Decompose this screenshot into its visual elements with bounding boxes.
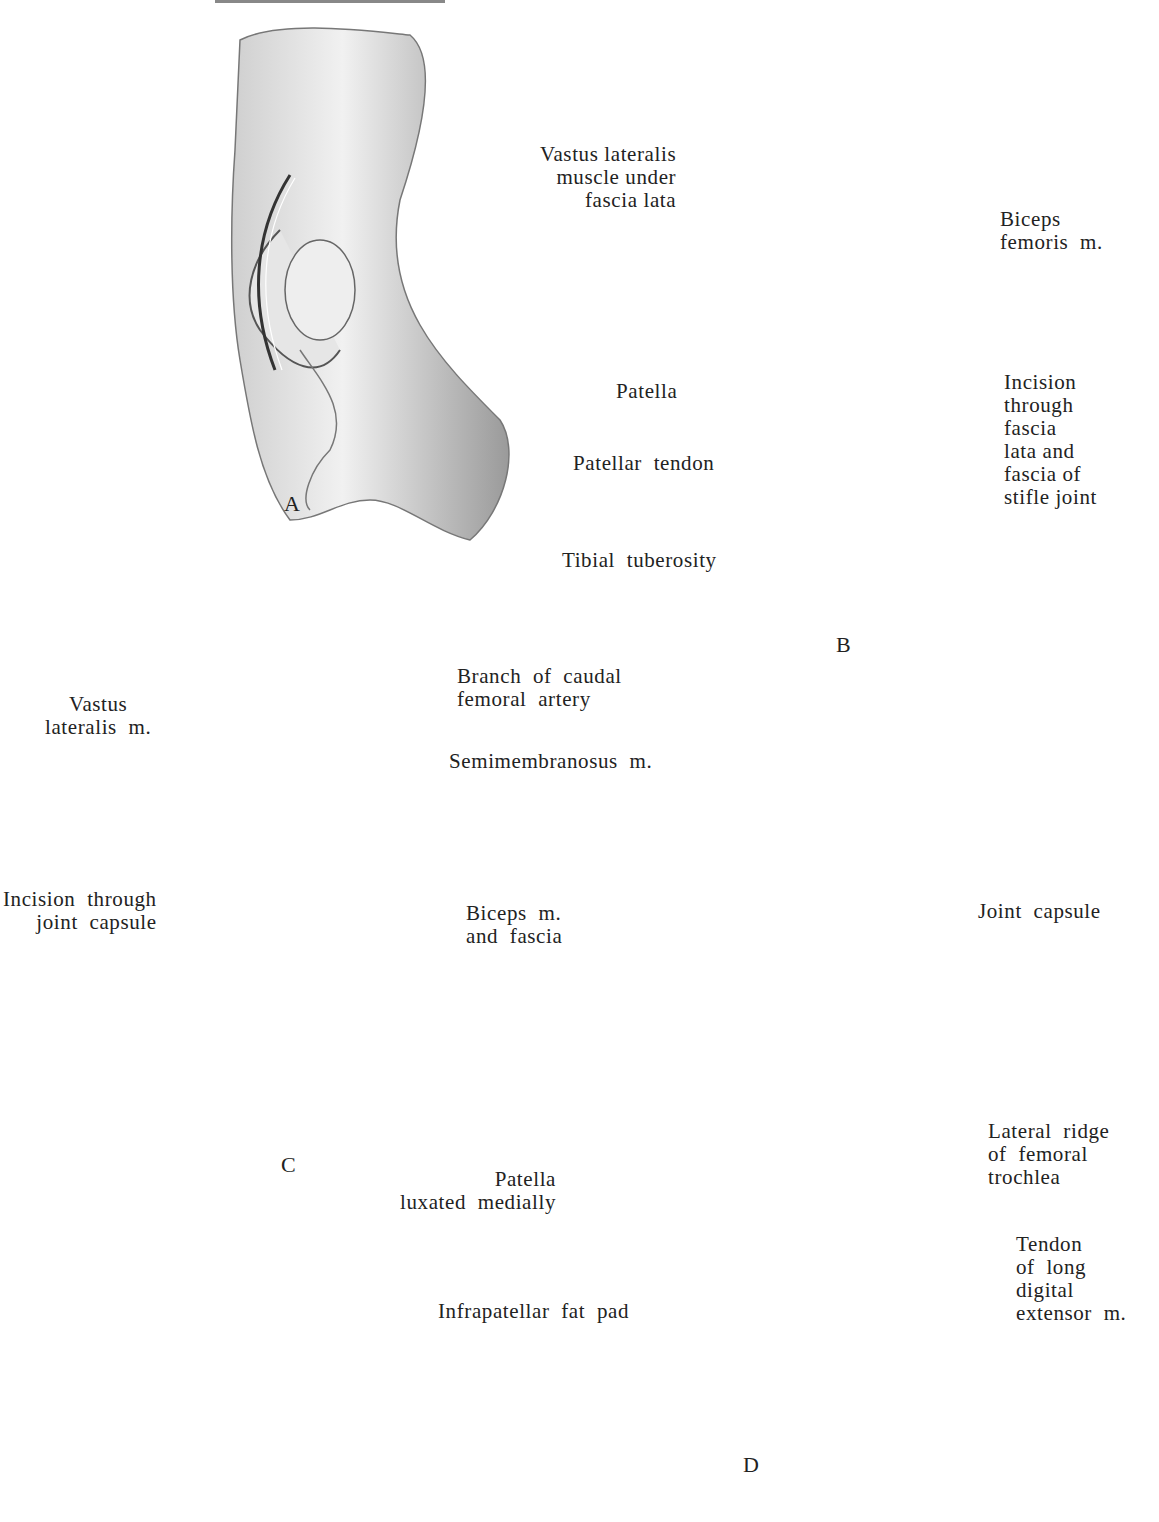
label-biceps-m-and-fascia: Biceps m. and fascia — [466, 902, 562, 948]
label-joint-capsule: Joint capsule — [978, 900, 1101, 923]
label-incision-through-joint-capsule: Incision through joint capsule — [3, 888, 157, 934]
label-tibial-tuberosity: Tibial tuberosity — [562, 549, 717, 572]
clipped-header-text — [215, 0, 445, 3]
label-biceps-femoris: Biceps femoris m. — [1000, 208, 1103, 254]
panel-label-d: D — [743, 1452, 759, 1478]
label-lateral-ridge-femoral-trochlea: Lateral ridge of femoral trochlea — [988, 1120, 1110, 1189]
panel-a-illustration — [232, 28, 509, 540]
label-patellar-tendon: Patellar tendon — [573, 452, 714, 475]
label-branch-caudal-femoral-artery: Branch of caudal femoral artery — [457, 665, 622, 711]
label-tendon-long-digital-extensor: Tendon of long digital extensor m. — [1016, 1233, 1126, 1325]
label-patella-luxated-medially: Patella luxated medially — [400, 1168, 556, 1214]
panel-label-b: B — [836, 632, 851, 658]
panel-label-a: A — [284, 491, 300, 517]
label-semimembranosus: Semimembranosus m. — [449, 750, 652, 773]
label-patella: Patella — [616, 380, 677, 403]
label-incision-through-fascia-lata: Incision through fascia lata and fascia … — [1004, 371, 1097, 509]
panel-label-c: C — [281, 1152, 296, 1178]
label-infrapatellar-fat-pad: Infrapatellar fat pad — [438, 1300, 629, 1323]
label-vastus-lateralis-m: Vastus lateralis m. — [45, 693, 151, 739]
label-vastus-lateralis-under-fascia-lata: Vastus lateralis muscle under fascia lat… — [540, 143, 676, 212]
